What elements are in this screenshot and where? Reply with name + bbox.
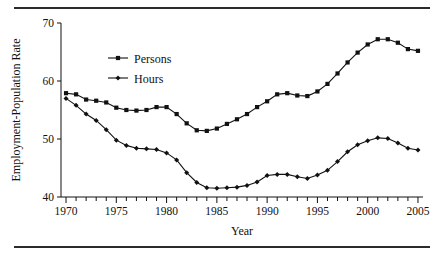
data-point-persons [205, 129, 209, 133]
data-point-hours [214, 186, 219, 191]
data-point-persons [315, 89, 319, 93]
data-point-hours [305, 176, 310, 181]
data-point-hours [144, 146, 149, 151]
chart-series-layer [64, 37, 421, 191]
data-point-persons [416, 49, 420, 53]
data-point-persons [406, 47, 410, 51]
data-point-persons [295, 93, 299, 97]
x-tick-label: 1990 [256, 205, 279, 217]
data-point-hours [295, 174, 300, 179]
data-point-hours [365, 138, 370, 143]
legend-label-hours: Hours [134, 72, 164, 86]
x-tick-label: 1980 [155, 205, 178, 217]
y-tick-label: 70 [43, 17, 55, 29]
data-point-persons [94, 99, 98, 103]
data-point-persons [285, 91, 289, 95]
data-point-persons [235, 117, 239, 121]
data-point-hours [134, 146, 139, 151]
x-tick-label: 1985 [205, 205, 228, 217]
data-point-persons [114, 106, 118, 110]
data-point-hours [224, 185, 229, 190]
data-point-hours [124, 143, 129, 148]
data-point-persons [245, 112, 249, 116]
legend-label-persons: Persons [134, 52, 172, 66]
y-axis-ticks [57, 23, 61, 197]
data-point-hours [315, 172, 320, 177]
data-point-hours [405, 146, 410, 151]
data-point-hours [375, 135, 380, 140]
data-point-hours [285, 172, 290, 177]
y-tick-label: 40 [43, 191, 55, 203]
series-line-persons [66, 39, 418, 131]
x-axis-title: Year [231, 224, 253, 238]
data-point-persons [195, 128, 199, 132]
data-point-persons [64, 91, 68, 95]
data-point-persons [134, 108, 138, 112]
data-point-hours [415, 148, 420, 153]
data-point-persons [154, 105, 158, 109]
data-point-hours [204, 185, 209, 190]
x-tick-label: 2005 [406, 205, 429, 217]
data-point-persons [124, 108, 128, 112]
data-point-persons [305, 94, 309, 98]
x-tick-label: 2000 [356, 205, 379, 217]
data-point-persons [366, 42, 370, 46]
data-point-persons [396, 41, 400, 45]
x-tick-label: 1970 [55, 205, 78, 217]
data-point-hours [234, 185, 239, 190]
data-point-persons [144, 108, 148, 112]
data-point-persons [74, 92, 78, 96]
series-persons [64, 37, 420, 133]
x-axis-group: 19701975198019851990199520002005 [55, 197, 430, 217]
chart-plot-area: 40506070 1970197519801985199019952000200… [0, 0, 441, 257]
x-axis-ticks [66, 197, 418, 203]
data-point-persons [104, 100, 108, 104]
data-point-persons [164, 105, 168, 109]
y-tick-label: 50 [43, 133, 55, 145]
data-point-persons [215, 126, 219, 130]
data-point-persons [84, 97, 88, 101]
series-line-hours [66, 98, 418, 188]
data-point-persons [265, 99, 269, 103]
data-point-persons [356, 50, 360, 54]
series-hours [64, 96, 421, 191]
data-point-persons [325, 82, 329, 86]
data-point-hours [245, 183, 250, 188]
y-axis-group: 40506070 [43, 17, 62, 203]
data-point-hours [275, 172, 280, 177]
y-tick-label: 60 [43, 75, 55, 87]
y-axis-tick-labels: 40506070 [43, 17, 55, 203]
legend-marker-hours [116, 76, 121, 81]
data-point-hours [395, 141, 400, 146]
data-point-persons [275, 92, 279, 96]
data-point-persons [185, 121, 189, 125]
x-tick-label: 1995 [306, 205, 329, 217]
x-tick-label: 1975 [105, 205, 128, 217]
y-axis-title: Employment-Population Rate [9, 39, 23, 182]
chart-legend: PersonsHours [108, 52, 172, 86]
data-point-hours [154, 147, 159, 152]
figure-container: 40506070 1970197519801985199019952000200… [0, 0, 441, 257]
data-point-hours [385, 136, 390, 141]
data-point-persons [335, 71, 339, 75]
data-point-persons [345, 60, 349, 64]
data-point-persons [376, 37, 380, 41]
data-point-persons [225, 122, 229, 126]
legend-marker-persons [116, 56, 120, 60]
data-point-persons [386, 37, 390, 41]
data-point-persons [175, 112, 179, 116]
line-chart-svg: 40506070 1970197519801985199019952000200… [0, 0, 441, 257]
data-point-persons [255, 105, 259, 109]
x-axis-tick-labels: 19701975198019851990199520002005 [55, 205, 430, 217]
